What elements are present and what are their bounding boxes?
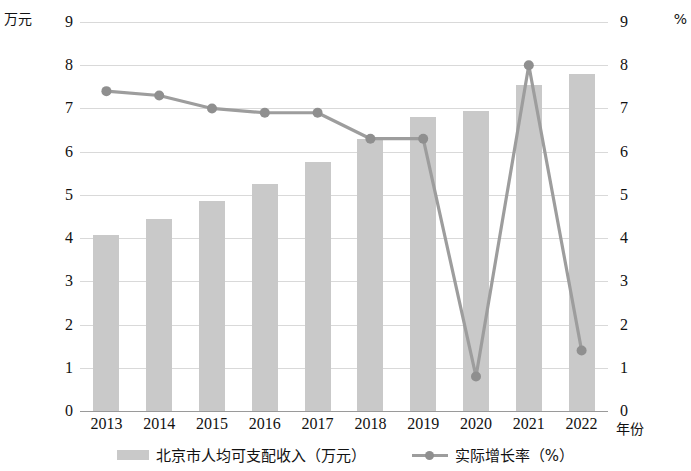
line-marker: 2016: 6.9% — [260, 108, 270, 118]
left-axis-tick: 1 — [55, 359, 73, 377]
legend-bar-swatch-icon — [117, 450, 149, 460]
right-axis-tick: 3 — [620, 272, 638, 290]
legend-label: 实际增长率（%） — [455, 444, 574, 465]
legend-label: 北京市人均可支配收入（万元） — [156, 444, 366, 465]
chart-legend: 北京市人均可支配收入（万元）实际增长率（%） — [0, 444, 691, 465]
x-axis-title: 年份 — [616, 418, 644, 438]
left-axis-tick: 7 — [55, 99, 73, 117]
right-axis-tick: 4 — [620, 229, 638, 247]
left-axis-tick: 3 — [55, 272, 73, 290]
legend-line-marker-icon — [412, 450, 448, 460]
left-axis-tick: 8 — [55, 56, 73, 74]
plot-area: 2013: 7.4%2014: 7.3%2015: 7%2016: 6.9%20… — [80, 22, 608, 411]
x-axis-tick: 2016 — [249, 416, 281, 432]
x-axis-tick: 2022 — [566, 416, 598, 432]
right-axis-tick: 7 — [620, 99, 638, 117]
x-axis-tick: 2017 — [302, 416, 334, 432]
left-axis-tick: 4 — [55, 229, 73, 247]
legend-item[interactable]: 北京市人均可支配收入（万元） — [117, 444, 366, 465]
right-axis-tick: 8 — [620, 56, 638, 74]
left-axis-tick: 9 — [55, 13, 73, 31]
axis-baseline — [80, 411, 608, 412]
right-axis-tick: 6 — [620, 143, 638, 161]
line-marker: 2013: 7.4% — [101, 86, 111, 96]
line-series: 2013: 7.4%2014: 7.3%2015: 7%2016: 6.9%20… — [80, 22, 608, 411]
line-path — [106, 65, 581, 376]
x-axis-tick: 2020 — [460, 416, 492, 432]
x-axis-tick: 2021 — [513, 416, 545, 432]
line-marker: 2014: 7.3% — [154, 90, 164, 100]
line-marker: 2018: 6.3% — [365, 134, 375, 144]
x-axis-tick: 2015 — [196, 416, 228, 432]
line-marker: 2022: 1.4% — [577, 345, 587, 355]
x-axis-tick-labels: 2013201420152016201720182019202020212022 — [80, 416, 608, 438]
x-axis-tick: 2018 — [354, 416, 386, 432]
right-axis-tick: 9 — [620, 13, 638, 31]
line-marker: 2021: 8% — [524, 60, 534, 70]
line-marker: 2015: 7% — [207, 103, 217, 113]
left-axis-tick: 6 — [55, 143, 73, 161]
left-axis-tick: 5 — [55, 186, 73, 204]
legend-item[interactable]: 实际增长率（%） — [412, 444, 574, 465]
right-axis-tick: 1 — [620, 359, 638, 377]
line-marker: 2017: 6.9% — [313, 108, 323, 118]
x-axis-tick: 2014 — [143, 416, 175, 432]
left-axis-unit-label: 万元 — [4, 12, 32, 26]
line-marker: 2019: 6.3% — [418, 134, 428, 144]
right-axis-unit-label: % — [674, 12, 687, 26]
x-axis-tick: 2013 — [90, 416, 122, 432]
x-axis-tick: 2019 — [407, 416, 439, 432]
chart-container: 万元 % 0123456789 0123456789 2013: 7.4%201… — [0, 0, 691, 471]
left-axis-tick: 0 — [55, 402, 73, 420]
right-axis-tick: 2 — [620, 316, 638, 334]
left-axis-tick: 2 — [55, 316, 73, 334]
right-axis-tick: 5 — [620, 186, 638, 204]
line-marker: 2020: 0.8% — [471, 371, 481, 381]
